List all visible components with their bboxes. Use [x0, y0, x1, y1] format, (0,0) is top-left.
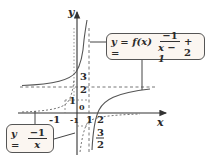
f-formula-numerator: −1: [160, 30, 179, 42]
x-tick-3-2-den: 2: [97, 139, 104, 150]
x-tick-3-2-num: 3: [97, 127, 104, 138]
y-tick-neg1: -1: [70, 115, 79, 125]
g-formula-lhs: y =: [11, 128, 26, 150]
g-label-connector-right: [54, 133, 75, 139]
f-formula-label: y = f(x) = −1 x − 1 + 2: [106, 33, 205, 60]
f-formula-fraction: −1 x − 1: [158, 30, 182, 64]
g-formula-label: y = −1 x: [6, 124, 54, 153]
g-formula-fraction: −1 x: [28, 127, 47, 150]
y-axis-label: y: [67, 6, 76, 19]
x-tick-1: 1: [86, 114, 93, 125]
y-tick-1: 1: [69, 95, 76, 106]
x-tick-2: 2: [97, 114, 104, 125]
f-formula-tail: + 2: [184, 36, 200, 58]
x-tick-neg1: -1: [49, 114, 60, 125]
f-formula-lhs: y = f(x) =: [111, 36, 156, 58]
y-tick-3: 3: [80, 71, 87, 82]
f-formula-denominator: x − 1: [158, 42, 182, 64]
g-formula-numerator: −1: [28, 127, 47, 139]
graph-figure: y x 0 3 2 1 -1 -1 1 2 3 2 y = f(x) = −1 …: [0, 0, 212, 158]
g-formula-denominator: x: [34, 139, 40, 150]
y-tick-2: 2: [80, 84, 87, 95]
origin-label: 0: [79, 102, 85, 112]
x-axis-label: x: [156, 116, 164, 129]
